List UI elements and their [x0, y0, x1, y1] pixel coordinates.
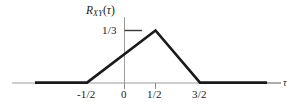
x-tick-label-neg-half: -1/2 — [77, 89, 96, 100]
y-axis-label-subscript: XY — [93, 9, 103, 18]
y-axis-label-symbol: R — [86, 4, 93, 16]
x-tick-label-zero: 0 — [121, 89, 127, 100]
x-tick-label-three-halves: 3/2 — [192, 89, 207, 100]
y-axis-label: RXY(τ) — [86, 5, 115, 18]
y-axis-label-close-paren: ) — [111, 4, 115, 16]
correlation-curve — [35, 31, 267, 83]
x-axis-label: τ — [283, 78, 287, 88]
y-tick-label-1-3: 1/3 — [102, 25, 117, 36]
figure-container: RXY(τ) 1/3 -1/2 0 1/2 3/2 τ — [0, 0, 297, 109]
x-tick-label-half: 1/2 — [147, 89, 162, 100]
